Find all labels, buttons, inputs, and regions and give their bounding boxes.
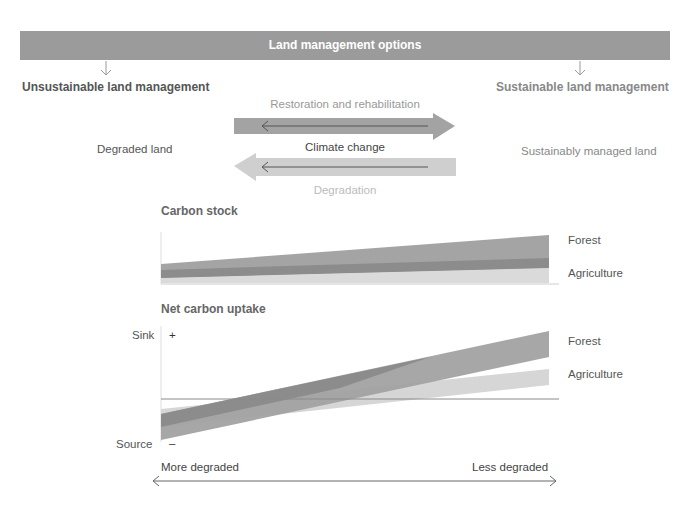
less-degraded-label: Less degraded [472,461,548,473]
carbon-stock-forest-label: Forest [568,234,601,246]
degradation-axis-arrow [153,476,556,486]
diagram-graphics [0,0,700,513]
climate-change-label: Climate change [234,141,456,153]
carbon-stock-agriculture-label: Agriculture [568,267,623,279]
carbon-stock-title: Carbon stock [161,204,238,218]
restoration-label: Restoration and rehabilitation [234,98,456,110]
degraded-land-label: Degraded land [97,143,172,155]
net-carbon-uptake-chart [161,326,559,442]
sustainably-managed-land-label: Sustainably managed land [521,145,657,157]
more-degraded-label: More degraded [161,461,239,473]
carbon-stock-chart [161,232,559,284]
sink-label: Sink [132,329,154,341]
down-arrow-icon-left [101,61,111,75]
degradation-arrow [234,153,456,181]
net-carbon-uptake-title: Net carbon uptake [161,302,266,316]
restoration-arrow [234,113,455,140]
down-arrow-icon-right [575,61,585,75]
sustainable-management-label: Sustainable land management [496,80,669,94]
net-uptake-forest-label: Forest [568,335,601,347]
unsustainable-management-label: Unsustainable land management [22,80,209,94]
minus-sign: – [169,437,175,449]
source-label: Source [116,438,152,450]
net-uptake-agriculture-label: Agriculture [568,368,623,380]
degradation-label: Degradation [234,184,456,196]
plus-sign: + [169,329,176,341]
